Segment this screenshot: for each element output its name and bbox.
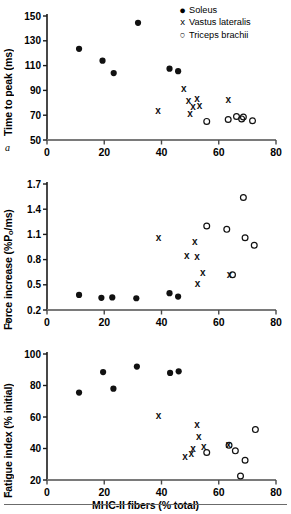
svg-text:100: 100 — [24, 349, 41, 360]
svg-text:40: 40 — [30, 443, 42, 454]
svg-text:40: 40 — [156, 486, 168, 498]
svg-text:80: 80 — [270, 146, 282, 158]
svg-text:60: 60 — [30, 412, 42, 423]
panel-a-letter: a — [5, 142, 10, 153]
panel-a-y-axis-label: Time to peak (ms) — [2, 18, 14, 136]
svg-text:40: 40 — [156, 146, 168, 158]
x-axis-label: MHC-II fibers (% total) — [0, 499, 291, 511]
svg-text:150: 150 — [24, 11, 41, 22]
legend-item-triceps-brachii: ○ Triceps brachii — [176, 29, 251, 41]
bottom-divider — [4, 504, 287, 505]
panel-b-y-axis-label: Force increase (%Po/ms) — [2, 178, 15, 330]
svg-text:x: x — [200, 267, 206, 278]
legend-item-soleus: ● Soleus — [176, 4, 251, 16]
svg-text:x: x — [155, 105, 161, 116]
svg-text:x: x — [156, 410, 162, 421]
figure-container: Time to peak (ms) a 50709011013015002040… — [0, 0, 291, 514]
svg-text:80: 80 — [270, 486, 282, 498]
panel-c-plot: 20406080100020406080xxxxxxxx — [0, 344, 291, 514]
panel-c-letter: c — [5, 488, 9, 499]
svg-text:20: 20 — [98, 146, 110, 158]
svg-text:1.4: 1.4 — [27, 204, 41, 215]
svg-text:80: 80 — [30, 380, 42, 391]
svg-text:x: x — [195, 278, 201, 289]
svg-text:0: 0 — [44, 486, 50, 498]
svg-text:110: 110 — [25, 60, 42, 71]
legend: ● Soleus x Vastus lateralis ○ Triceps br… — [176, 4, 251, 41]
svg-text:1.1: 1.1 — [27, 229, 41, 240]
panel-c: Fatigue index (% initial) c 204060801000… — [0, 344, 291, 514]
open-circle-icon: ○ — [176, 29, 189, 41]
svg-text:x: x — [156, 232, 162, 243]
svg-text:x: x — [194, 419, 200, 430]
legend-item-vastus-lateralis: x Vastus lateralis — [176, 16, 251, 28]
svg-text:x: x — [197, 100, 203, 111]
filled-circle-icon: ● — [176, 6, 189, 15]
svg-text:x: x — [184, 250, 190, 261]
svg-text:20: 20 — [98, 316, 110, 328]
svg-text:90: 90 — [30, 85, 42, 96]
svg-text:x: x — [225, 94, 231, 105]
svg-text:x: x — [192, 236, 198, 247]
svg-text:0.5: 0.5 — [27, 279, 41, 290]
legend-label-soleus: Soleus — [189, 4, 217, 16]
svg-text:40: 40 — [156, 316, 168, 328]
svg-text:60: 60 — [213, 146, 225, 158]
x-cross-icon: x — [176, 16, 189, 28]
svg-text:130: 130 — [24, 35, 41, 46]
svg-text:50: 50 — [30, 135, 42, 146]
panel-b-y-axis-label-subscript: o — [6, 230, 15, 234]
svg-text:60: 60 — [213, 486, 225, 498]
svg-text:x: x — [187, 108, 193, 119]
svg-text:1.7: 1.7 — [27, 179, 41, 190]
svg-text:0.2: 0.2 — [27, 305, 41, 316]
svg-text:x: x — [181, 83, 187, 94]
svg-text:x: x — [182, 451, 188, 462]
svg-text:20: 20 — [98, 486, 110, 498]
panel-c-y-axis-label: Fatigue index (% initial) — [2, 348, 14, 498]
panel-a: Time to peak (ms) a 50709011013015002040… — [0, 0, 291, 172]
svg-text:70: 70 — [30, 110, 42, 121]
svg-text:0: 0 — [44, 316, 50, 328]
panel-b-letter: b — [5, 316, 10, 327]
panel-b-plot: 0.20.50.81.11.41.7020406080xxxxxxx — [0, 172, 291, 344]
svg-text:x: x — [190, 443, 196, 454]
svg-text:x: x — [194, 251, 200, 262]
panel-b: Force increase (%Po/ms) b 0.20.50.81.11.… — [0, 172, 291, 344]
panel-b-y-axis-label-post: /ms) — [2, 209, 14, 230]
legend-label-vastus-lateralis: Vastus lateralis — [189, 16, 251, 28]
legend-label-triceps-brachii: Triceps brachii — [189, 29, 248, 41]
svg-text:20: 20 — [30, 475, 42, 486]
svg-text:60: 60 — [213, 316, 225, 328]
svg-text:80: 80 — [270, 316, 282, 328]
svg-text:0.8: 0.8 — [27, 254, 41, 265]
svg-text:0: 0 — [44, 146, 50, 158]
